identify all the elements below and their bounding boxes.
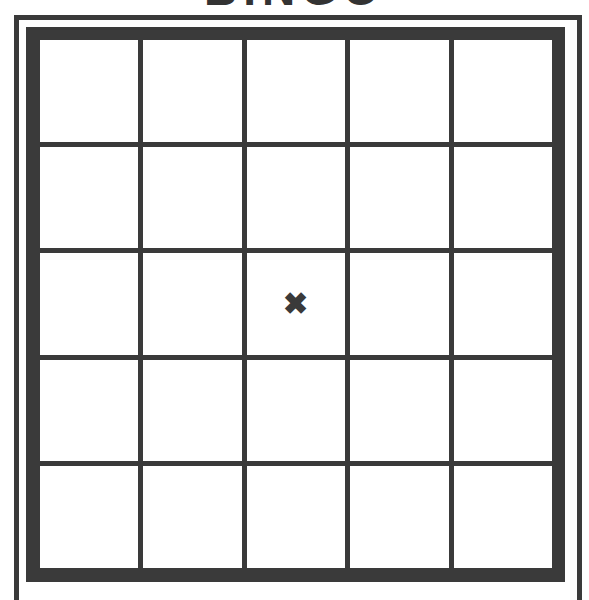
cell-r2-c1[interactable] [40,147,138,249]
cell-r4-c4[interactable] [350,360,448,462]
cell-r2-c3[interactable] [247,147,345,249]
cell-r5-c2[interactable] [143,466,241,568]
cell-r5-c3[interactable] [247,466,345,568]
cell-r1-c5[interactable] [454,40,552,142]
cell-r4-c5[interactable] [454,360,552,462]
cell-r1-c2[interactable] [143,40,241,142]
cell-r3-c4[interactable] [350,253,448,355]
cell-r4-c2[interactable] [143,360,241,462]
x-mark-icon[interactable]: ✖ [247,253,345,355]
bingo-card: ✖ [26,27,565,582]
cell-r5-c4[interactable] [350,466,448,568]
page-title: BINGO [0,0,589,12]
cell-r2-c2[interactable] [143,147,241,249]
bingo-grid: ✖ [40,40,552,568]
cell-r3-c1[interactable] [40,253,138,355]
cell-r4-c1[interactable] [40,360,138,462]
cell-r1-c4[interactable] [350,40,448,142]
cell-r5-c1[interactable] [40,466,138,568]
cell-r2-c4[interactable] [350,147,448,249]
cell-r1-c1[interactable] [40,40,138,142]
cell-r4-c3[interactable] [247,360,345,462]
cell-r3-c5[interactable] [454,253,552,355]
cell-r5-c5[interactable] [454,466,552,568]
cell-r2-c5[interactable] [454,147,552,249]
cell-r1-c3[interactable] [247,40,345,142]
cell-r3-c2[interactable] [143,253,241,355]
